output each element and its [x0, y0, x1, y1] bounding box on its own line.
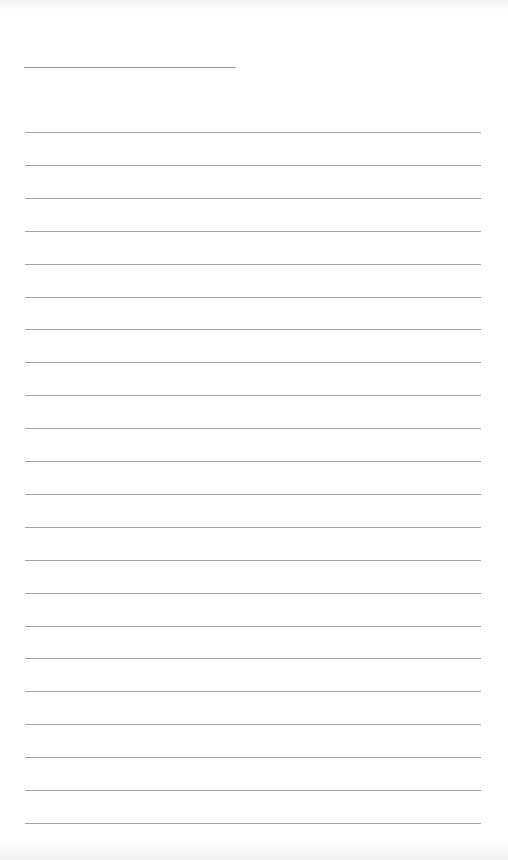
ruled-line — [25, 428, 481, 429]
ruled-line — [25, 395, 481, 396]
ruled-line — [25, 560, 481, 561]
header-name-line — [24, 67, 236, 68]
ruled-line — [25, 691, 481, 692]
ruled-line — [25, 297, 481, 298]
ruled-line — [25, 494, 481, 495]
ruled-line — [25, 132, 481, 133]
ruled-line — [25, 724, 481, 725]
ruled-line — [25, 264, 481, 265]
ruled-line — [25, 461, 481, 462]
ruled-line — [25, 362, 481, 363]
ruled-line — [25, 823, 481, 824]
ruled-line — [25, 593, 481, 594]
ruled-line — [25, 165, 481, 166]
ruled-line — [25, 527, 481, 528]
ruled-line — [25, 198, 481, 199]
ruled-line — [25, 790, 481, 791]
ruled-line — [25, 757, 481, 758]
page-bottom-edge — [0, 840, 508, 860]
ruled-line — [25, 626, 481, 627]
lined-paper-page — [0, 0, 508, 860]
page-top-edge — [0, 0, 508, 10]
ruled-line — [25, 658, 481, 659]
ruled-line — [25, 329, 481, 330]
ruled-line — [25, 231, 481, 232]
